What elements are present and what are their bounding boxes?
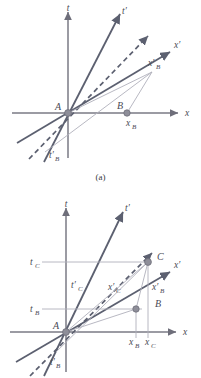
panel-a: t x t′ x′ A B x B x′ B t′ B bbox=[0, 0, 201, 168]
caption-a: (a) bbox=[0, 172, 201, 182]
coord-label-t-prime-sub-b-sub: B bbox=[55, 155, 60, 163]
point-a-marker bbox=[65, 110, 72, 117]
coord-label-t-prime-sub-c: t′ C bbox=[71, 280, 83, 293]
coord-label-t-sub-c-sub: C bbox=[35, 262, 40, 270]
coord-label-x-sub-b: x B bbox=[125, 118, 137, 131]
coord-label-t-sub-b-sub: B bbox=[35, 309, 40, 317]
axis-label-t: t bbox=[67, 3, 70, 13]
point-label-b: B bbox=[117, 100, 123, 111]
coord-label-x-sub-b-sub: B bbox=[132, 123, 137, 131]
spacetime-figure: t x t′ x′ A B x B x′ B t′ B (a) bbox=[0, 0, 201, 378]
coord-label-x-sub-b: x B bbox=[128, 337, 140, 350]
dashed-worldline bbox=[30, 253, 152, 376]
axis-label-x: x bbox=[182, 327, 188, 337]
coord-label-x-prime-sub-b-sub: B bbox=[160, 287, 165, 295]
panel-a-diagram: t x t′ x′ A B x B x′ B t′ B bbox=[0, 0, 201, 168]
point-c-marker bbox=[145, 259, 152, 266]
coord-label-x-sub-c-sub: C bbox=[151, 342, 156, 350]
construction-line-b-tprime bbox=[45, 72, 152, 152]
coord-label-x-prime-sub-c-sub: C bbox=[116, 287, 121, 295]
dashed-worldline bbox=[29, 36, 148, 159]
point-label-a: A bbox=[52, 320, 60, 331]
coord-label-x-sub-b-base: x bbox=[125, 118, 131, 128]
coord-label-x-sub-b-base: x bbox=[128, 337, 134, 347]
point-a-marker bbox=[63, 329, 70, 336]
coord-label-t-sub-c: t C bbox=[30, 257, 40, 270]
coord-label-t-prime-sub-c-base: t′ bbox=[71, 280, 77, 290]
point-b-marker bbox=[124, 110, 130, 116]
coord-label-x-prime-sub-b: x′ B bbox=[151, 282, 165, 295]
axis-label-x: x bbox=[184, 108, 190, 118]
coord-label-t-prime-sub-b-base: t′ bbox=[49, 150, 55, 160]
coord-label-x-prime-sub-b: x′ B bbox=[147, 58, 161, 71]
coord-label-x-prime-sub-c: x′ C bbox=[107, 282, 121, 295]
coord-label-t-prime-sub-b: t′ B bbox=[49, 150, 60, 163]
coord-label-t-sub-b-base: t bbox=[30, 304, 33, 314]
axis-label-x-prime: x′ bbox=[173, 260, 181, 270]
coord-label-x-prime-sub-b-sub: B bbox=[156, 63, 161, 71]
coord-label-t-sub-b: t B bbox=[30, 304, 40, 317]
axis-label-x-prime: x′ bbox=[173, 40, 181, 50]
axis-label-t-prime: t′ bbox=[125, 203, 131, 213]
axis-label-t-prime: t′ bbox=[122, 6, 128, 16]
coord-label-t-prime-sub-c-sub: C bbox=[78, 285, 83, 293]
coord-label-x-prime-sub-b-base: x′ bbox=[147, 58, 155, 68]
point-label-b: B bbox=[155, 298, 161, 309]
coord-label-t-prime-sub-b: t′ B bbox=[50, 357, 61, 370]
point-label-a: A bbox=[54, 101, 62, 112]
coord-label-t-prime-sub-b-base: t′ bbox=[50, 357, 56, 367]
axis-label-t: t bbox=[65, 199, 68, 209]
point-b-marker bbox=[133, 306, 139, 312]
coord-label-x-sub-c: x C bbox=[144, 337, 156, 350]
coord-label-t-sub-c-base: t bbox=[30, 257, 33, 267]
x-prime-axis-line bbox=[16, 272, 170, 362]
point-label-c: C bbox=[157, 251, 164, 262]
coord-label-x-sub-c-base: x bbox=[144, 337, 150, 347]
panel-b: t x t′ x′ A B C t C t B t′ C bbox=[0, 196, 201, 378]
coord-label-x-prime-sub-b-base: x′ bbox=[151, 282, 159, 292]
coord-label-x-sub-b-sub: B bbox=[135, 342, 140, 350]
coord-label-t-prime-sub-b-sub: B bbox=[56, 362, 61, 370]
coord-label-x-prime-sub-c-base: x′ bbox=[107, 282, 115, 292]
panel-b-diagram: t x t′ x′ A B C t C t B t′ C bbox=[0, 196, 201, 378]
